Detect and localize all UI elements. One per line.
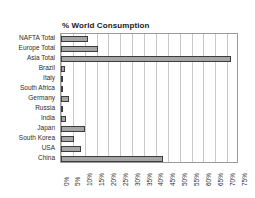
y-axis-tick-label: India <box>41 114 55 122</box>
bar[interactable] <box>61 46 98 52</box>
y-axis-tick-label: Brazil <box>39 64 55 72</box>
bar-row <box>61 74 237 84</box>
chart-title: % World Consumption <box>62 21 150 30</box>
x-axis-tick-label: 50% <box>181 173 188 186</box>
bar-row <box>61 64 237 74</box>
bar-row <box>61 54 237 64</box>
bar-row <box>61 94 237 104</box>
y-axis-tick-label: USA <box>42 144 55 152</box>
x-axis-tick-label: 75% <box>241 173 248 186</box>
y-axis-tick-label: Italy <box>43 74 55 82</box>
y-axis-tick-label: NAFTA Total <box>19 34 55 42</box>
x-axis-tick-label: 20% <box>110 173 117 186</box>
bar[interactable] <box>61 126 85 132</box>
bar[interactable] <box>61 96 69 102</box>
bar-row <box>61 34 237 44</box>
bar-row <box>61 104 237 114</box>
bar[interactable] <box>61 106 63 112</box>
x-axis-tick-label: 70% <box>229 173 236 186</box>
bar-row <box>61 144 237 154</box>
bar-row <box>61 124 237 134</box>
y-axis-tick-label: South Korea <box>19 134 55 142</box>
y-axis-tick-label: Europe Total <box>19 44 55 52</box>
x-axis-labels: 0%5%10%15%20%25%30%35%40%45%50%55%60%65%… <box>60 164 238 198</box>
y-axis-tick-label: Germany <box>28 94 55 102</box>
bar-row <box>61 154 237 163</box>
x-axis-tick-label: 30% <box>134 173 141 186</box>
x-axis-tick-label: 35% <box>146 173 153 186</box>
y-axis-labels: NAFTA TotalEurope TotalAsia TotalBrazilI… <box>0 33 57 163</box>
bar[interactable] <box>61 66 65 72</box>
y-axis-tick-label: China <box>38 154 55 162</box>
x-axis-tick-label: 40% <box>157 173 164 186</box>
bar-row <box>61 44 237 54</box>
x-axis-tick-label: 25% <box>122 173 129 186</box>
bars-layer <box>61 34 237 162</box>
bar[interactable] <box>61 146 81 152</box>
x-axis-tick-label: 45% <box>169 173 176 186</box>
bar[interactable] <box>61 156 163 162</box>
x-axis-tick-label: 60% <box>205 173 212 186</box>
y-axis-tick-label: Russia <box>35 104 55 112</box>
x-axis-tick-label: 10% <box>86 173 93 186</box>
bar[interactable] <box>61 36 88 42</box>
bar[interactable] <box>61 76 63 82</box>
bar[interactable] <box>61 116 66 122</box>
bar-row <box>61 134 237 144</box>
bar[interactable] <box>61 56 231 62</box>
plot-area <box>60 33 238 163</box>
chart-container: % World Consumption NAFTA TotalEurope To… <box>0 0 255 198</box>
bar-row <box>61 114 237 124</box>
x-axis-tick-label: 65% <box>217 173 224 186</box>
y-axis-tick-label: Asia Total <box>27 54 55 62</box>
bar-row <box>61 84 237 94</box>
x-axis-tick-label: 15% <box>98 173 105 186</box>
x-axis-tick-label: 5% <box>74 177 81 186</box>
y-axis-tick-label: South Africa <box>20 84 55 92</box>
bar[interactable] <box>61 86 63 92</box>
bar[interactable] <box>61 136 74 142</box>
x-axis-tick-label: 55% <box>193 173 200 186</box>
x-axis-tick-label: 0% <box>63 177 70 186</box>
y-axis-tick-label: Japan <box>37 124 55 132</box>
